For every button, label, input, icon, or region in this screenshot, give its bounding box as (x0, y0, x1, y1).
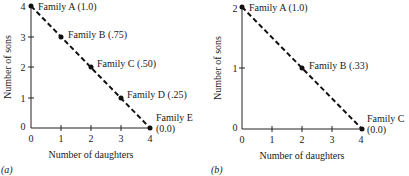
y-axis-title-a: Number of sons (2, 35, 13, 99)
x-tick-label: 1 (270, 134, 275, 145)
panel-label-a: (a) (1, 164, 13, 176)
y-tick-label: 0 (21, 121, 26, 132)
x-tick-label: 2 (300, 134, 305, 145)
y-tick-label: 3 (21, 32, 26, 43)
y-tick-label: 2 (21, 62, 26, 73)
x-tick-label: 0 (240, 134, 245, 145)
chart-b: 2 1 0 0 1 2 3 4 Family A (1.0) Family B … (211, 2, 405, 176)
point-label: Family E (156, 112, 193, 123)
y-tick-label: 4 (21, 1, 26, 12)
y-tick-label: 0 (233, 122, 238, 133)
point-label: Family C (367, 113, 405, 124)
point-label: Family A (1.0) (38, 1, 97, 13)
y-axis-title-b: Number of sons (212, 36, 223, 100)
x-tick-label: 3 (330, 134, 335, 145)
x-tick-label: 1 (59, 133, 64, 144)
chart-a: 4 3 2 1 0 0 1 2 3 4 Family A (1.0) Famil… (1, 1, 193, 176)
point-label: (0.0) (367, 124, 386, 136)
point-label: Family A (1.0) (249, 2, 308, 14)
x-tick-label: 3 (119, 133, 124, 144)
y-tick-label: 1 (21, 93, 26, 104)
point-label: (0.0) (156, 123, 175, 135)
x-tick-label: 4 (359, 134, 364, 145)
x-tick-label: 0 (29, 133, 34, 144)
x-tick-label: 4 (148, 133, 153, 144)
figure: 4 3 2 1 0 0 1 2 3 4 Family A (1.0) Famil… (0, 0, 409, 176)
point-label: Family C (.50) (97, 58, 156, 70)
point-label: Family B (.75) (68, 29, 127, 41)
point-label: Family D (.25) (127, 89, 187, 101)
y-tick-label: 1 (233, 63, 238, 74)
point-label: Family B (.33) (309, 60, 368, 72)
y-tick-label: 2 (233, 3, 238, 14)
x-tick-label: 2 (89, 133, 94, 144)
panel-label-b: (b) (211, 164, 223, 176)
x-axis-title-b: Number of daughters (260, 150, 345, 161)
x-axis-title-a: Number of daughters (49, 149, 134, 160)
